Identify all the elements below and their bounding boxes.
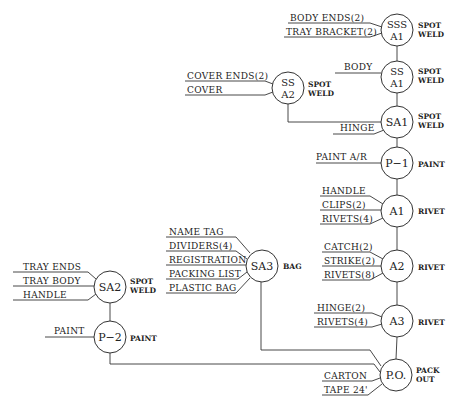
input-label: TRAY ENDS [23, 262, 81, 272]
operation-label: WELD [129, 286, 156, 295]
node-id: A2 [389, 260, 405, 273]
input-label: NAME TAG [169, 227, 224, 237]
node-id: A1 [389, 78, 404, 89]
node-id: SS [281, 77, 295, 88]
operation-label: WELD [417, 121, 444, 130]
operation-label: OUT [416, 375, 435, 384]
node-id: SSS [387, 19, 407, 30]
node-a2: CATCH(2) STRIKE(2) RIVETS(8) A2 RIVET [322, 242, 445, 282]
input-label: RIVETS(4) [322, 214, 373, 224]
input-label: RIVETS(4) [317, 317, 368, 327]
operation-label: SPOT [418, 112, 442, 121]
input-label: CATCH(2) [324, 242, 373, 252]
node-id: P−1 [385, 157, 409, 170]
node-id: SA1 [386, 116, 408, 129]
node-sss-a1: BODY ENDS(2) TRAY BRACKET(2) SSS A1 SPOT… [284, 13, 444, 46]
operation-label: WELD [417, 76, 444, 85]
node-sa3: NAME TAG DIVIDERS(4) REGISTRATION PACKIN… [166, 227, 302, 293]
input-label: CLIPS(2) [322, 200, 366, 210]
operation-label: RIVET [418, 263, 445, 272]
input-label: BODY ENDS(2) [290, 13, 364, 23]
operation-label: BAG [283, 262, 302, 271]
node-id: A2 [280, 89, 295, 100]
operation-label: SPOT [418, 67, 442, 76]
node-p2: PAINT P−2 PAINT [45, 321, 157, 353]
input-label: STRIKE(2) [324, 256, 375, 266]
input-label: PACKING LIST [169, 269, 241, 279]
node-a3: HINGE(2) RIVETS(4) A3 RIVET [314, 303, 445, 337]
input-label: PAINT [54, 326, 85, 336]
node-id: A1 [389, 205, 405, 218]
node-id: SS [390, 66, 404, 77]
operation-label: WELD [417, 30, 444, 39]
input-label: CARTON [324, 371, 367, 381]
assembly-chart: BODY ENDS(2) TRAY BRACKET(2) SSS A1 SPOT… [0, 0, 450, 404]
node-id: A1 [389, 31, 404, 42]
node-ss-a2: COVER ENDS(2) COVER SS A2 SPOT WELD [185, 71, 334, 104]
node-a1: HANDLE CLIPS(2) RIVETS(4) A1 RIVET [320, 186, 445, 227]
input-label: HINGE(2) [317, 303, 365, 313]
input-label: COVER [187, 85, 222, 95]
node-id: SA2 [99, 281, 121, 294]
node-id: P−2 [98, 331, 122, 344]
operation-label: SPOT [418, 21, 442, 30]
operation-label: SPOT [308, 80, 332, 89]
input-label: PAINT A/R [316, 152, 367, 162]
input-label: HINGE [340, 123, 375, 133]
input-label: COVER ENDS(2) [187, 71, 268, 81]
node-p1: PAINT A/R P−1 PAINT [316, 147, 445, 179]
input-label: PLASTIC BAG [169, 283, 237, 293]
input-label: HANDLE [23, 290, 67, 300]
node-sa2: TRAY ENDS TRAY BODY HANDLE SA2 SPOT WELD [13, 262, 156, 303]
node-id: A3 [389, 315, 405, 328]
node-id: P.O. [386, 369, 407, 382]
input-label: REGISTRATION [169, 255, 246, 265]
node-id: SA3 [251, 260, 273, 273]
operation-label: PAINT [418, 160, 445, 169]
node-ss-a1: BODY SS A1 SPOT WELD [335, 61, 444, 93]
input-label: DIVIDERS(4) [169, 241, 233, 251]
operation-label: RIVET [418, 207, 445, 216]
operation-label: WELD [307, 89, 334, 98]
operation-label: PAINT [130, 334, 157, 343]
input-label: TAPE 24' [324, 385, 368, 395]
input-label: BODY [344, 62, 373, 72]
input-label: TRAY BRACKET(2) [286, 27, 377, 37]
input-label: RIVETS(8) [324, 270, 375, 280]
operation-label: RIVET [418, 318, 445, 327]
input-label: TRAY BODY [23, 276, 81, 286]
input-label: HANDLE [322, 186, 366, 196]
operation-label: PACK [416, 366, 440, 375]
operation-label: SPOT [130, 277, 154, 286]
